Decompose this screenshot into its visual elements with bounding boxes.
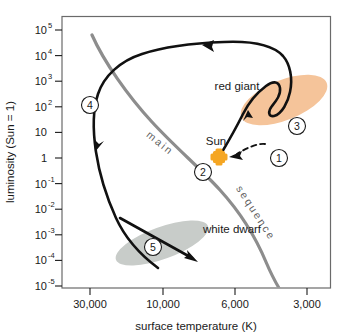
hr-diagram-svg: 10 5 10 4 10 3 10 2 10 1 10 -1 10 -2 10 … (0, 0, 343, 336)
y-tick-label: 10 (35, 126, 47, 138)
red-giant-label: red giant (215, 80, 261, 92)
y-tick-label: 10 (35, 75, 47, 87)
x-axis-tick-labels: 30,000 10,000 6,000 3,000 (73, 298, 321, 310)
y-tick-exponent: -1 (48, 175, 55, 184)
track-arrowhead-descending (94, 139, 104, 152)
step-1-arrowhead (229, 151, 243, 160)
step-badge-4-label: 4 (87, 99, 93, 111)
y-tick-label: 10 (35, 178, 47, 190)
y-tick-exponent: -4 (48, 251, 55, 260)
y-tick-exponent: 2 (48, 98, 52, 107)
white-dwarf-label: white dwarf (202, 223, 262, 235)
y-tick-exponent: 5 (48, 21, 52, 30)
step-badge-4: 4 (82, 97, 99, 114)
x-tick-label: 10,000 (146, 298, 180, 310)
y-axis-title: luminosity (Sun = 1) (4, 101, 16, 203)
y-axis-ticks (55, 30, 62, 286)
y-tick-exponent: -2 (48, 200, 55, 209)
y-tick-label: 10 (35, 254, 47, 266)
y-tick-label: 1 (41, 152, 47, 164)
step-badge-3: 3 (289, 118, 306, 135)
y-tick-label: 10 (35, 24, 47, 36)
hr-diagram-figure: 10 5 10 4 10 3 10 2 10 1 10 -1 10 -2 10 … (0, 0, 343, 336)
y-axis-tick-labels: 10 5 10 4 10 3 10 2 10 1 10 -1 10 -2 10 … (35, 21, 55, 292)
step-badge-5: 5 (145, 239, 162, 256)
sun-marker (211, 149, 228, 166)
y-tick-label: 10 (35, 203, 47, 215)
y-tick-label: 10 (35, 50, 47, 62)
step-badge-1: 1 (271, 150, 288, 167)
y-tick-exponent: 4 (48, 47, 52, 56)
y-tick-exponent: 3 (48, 72, 52, 81)
y-tick-label: 10 (35, 101, 47, 113)
sun-label: Sun (206, 135, 226, 147)
x-tick-label: 3,000 (293, 298, 321, 310)
x-tick-label: 30,000 (73, 298, 107, 310)
step-badge-3-label: 3 (294, 120, 300, 132)
x-axis-title: surface temperature (K) (135, 320, 257, 332)
step-badge-1-label: 1 (276, 152, 282, 164)
x-tick-label: 6,000 (221, 298, 249, 310)
y-tick-label: 10 (35, 280, 47, 292)
step-badge-5-label: 5 (150, 241, 156, 253)
y-tick-exponent: -3 (48, 226, 55, 235)
x-axis-ticks (90, 288, 307, 295)
y-tick-exponent: -5 (48, 277, 55, 286)
y-tick-label: 10 (35, 229, 47, 241)
step-badge-2-label: 2 (200, 166, 206, 178)
step-badge-2: 2 (195, 164, 212, 181)
red-giant-region (234, 64, 334, 136)
